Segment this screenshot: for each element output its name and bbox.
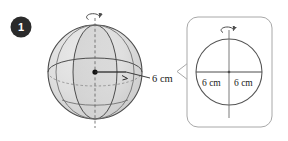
cross-section-right-label: 6 cm <box>234 78 253 88</box>
badge-label: 1 <box>18 21 24 33</box>
cross-section-callout: 6 cm 6 cm <box>177 17 272 127</box>
figure-number-badge: 1 <box>11 17 32 38</box>
sphere-cross-section-figure: 1 6 cm <box>0 0 288 141</box>
callout-tail-seam <box>189 62 192 80</box>
cross-section-left-label: 6 cm <box>202 78 221 88</box>
sphere-radius-label: 6 cm <box>152 73 173 84</box>
cross-section-center-dot <box>228 71 231 74</box>
figure-canvas: 1 6 cm <box>0 0 288 141</box>
